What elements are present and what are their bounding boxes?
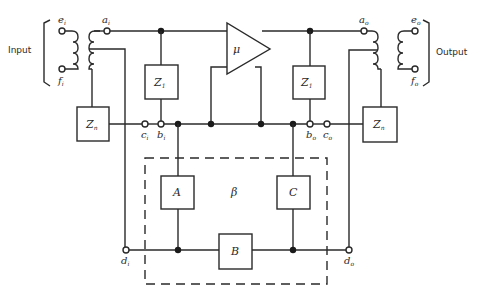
terminal-b-i-label: bi <box>157 129 165 141</box>
svg-text:C: C <box>289 186 298 199</box>
output-bracket <box>423 20 429 86</box>
terminal-e-o-label: eo <box>411 14 421 26</box>
terminal-d-o-label: do <box>344 255 354 267</box>
input-transformer <box>64 31 100 69</box>
terminal-e-o <box>412 28 418 34</box>
terminal-f-i <box>59 66 65 72</box>
terminal-d-i-label: di <box>121 255 129 267</box>
terminal-d-i <box>123 247 129 253</box>
terminal-b-o <box>307 121 313 127</box>
terminal-a-i <box>104 28 110 34</box>
z1-left-box: Z1 <box>145 65 178 99</box>
b-box: B <box>219 234 252 269</box>
zn-right-box: Zn <box>363 107 397 142</box>
zn-left-box: Zn <box>77 107 109 141</box>
junction-node <box>175 247 181 253</box>
terminal-c-i-label: ci <box>141 129 149 141</box>
terminal-a-i-label: ai <box>102 14 110 26</box>
feedback-amplifier-diagram: Input ei fi ai Zn ci bi Z1 μ <box>0 0 480 299</box>
terminal-c-i <box>142 121 148 127</box>
terminal-b-i <box>158 121 164 127</box>
svg-text:μ: μ <box>233 43 240 56</box>
junction-node <box>208 121 214 127</box>
terminal-e-i-label: ei <box>58 14 66 26</box>
terminal-c-o <box>324 121 330 127</box>
junction-node <box>290 247 296 253</box>
beta-label: β <box>230 186 237 199</box>
svg-text:A: A <box>172 186 181 199</box>
terminal-f-o-label: fo <box>410 75 419 87</box>
terminal-a-o <box>361 28 367 34</box>
junction-node <box>258 121 264 127</box>
terminal-b-o-label: bo <box>306 129 316 141</box>
z1-right-box: Z1 <box>293 66 325 99</box>
c-box: C <box>277 176 310 209</box>
terminal-f-o <box>412 66 418 72</box>
output-label: Output <box>436 47 468 57</box>
a-box: A <box>161 176 194 209</box>
input-bracket <box>44 20 50 86</box>
terminal-f-i-label: fi <box>57 75 64 87</box>
input-label: Input <box>8 45 32 55</box>
terminal-d-o <box>346 247 352 253</box>
svg-text:B: B <box>230 245 239 258</box>
terminal-a-o-label: ao <box>359 14 369 26</box>
terminal-e-i <box>59 28 65 34</box>
terminal-c-o-label: co <box>323 129 333 141</box>
